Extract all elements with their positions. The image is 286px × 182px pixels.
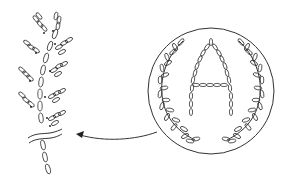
sprig-detail [18, 12, 74, 175]
laurel-left-icon [158, 38, 201, 144]
letter-a-chain-icon [189, 38, 232, 115]
laurel-right-icon [222, 38, 265, 144]
diagram-canvas [0, 0, 286, 182]
lower-stem-chain-icon [40, 140, 51, 175]
stem-chain-icon [38, 29, 59, 124]
diagram-svg [0, 0, 286, 182]
monogram-medallion [148, 28, 274, 154]
arrowhead-icon [76, 131, 84, 138]
medallion-circle-icon [148, 28, 274, 154]
pointer-arrow [76, 131, 157, 139]
